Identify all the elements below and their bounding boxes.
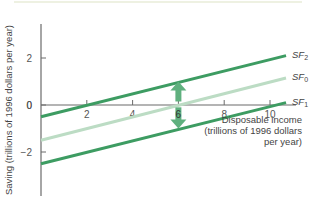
x-tick-label-overlay: 6 xyxy=(176,109,182,120)
y-axis-title: Saving (trillions of 1996 dollars per ye… xyxy=(3,25,14,195)
x-axis-title-line: (trillions of 1996 dollars xyxy=(204,125,302,136)
saving-function-chart: −2020246810SF2SF0SF16Disposable income(t… xyxy=(0,0,319,205)
y-tick-label: −2 xyxy=(21,147,33,158)
x-tick-label: 2 xyxy=(84,109,90,120)
arrow-up-shaft xyxy=(175,90,181,102)
series-label-sf2: SF2 xyxy=(292,49,308,62)
series-label-sf0: SF0 xyxy=(292,71,308,84)
y-tick-label: 0 xyxy=(26,100,32,111)
y-tick-label: 2 xyxy=(26,53,32,64)
x-axis-title-line: per year) xyxy=(264,136,302,147)
series-label-sf1: SF1 xyxy=(292,96,308,109)
x-axis-title-line: Disposable income xyxy=(222,114,302,125)
plot-area: −2020246810SF2SF0SF16Disposable income(t… xyxy=(3,24,308,196)
